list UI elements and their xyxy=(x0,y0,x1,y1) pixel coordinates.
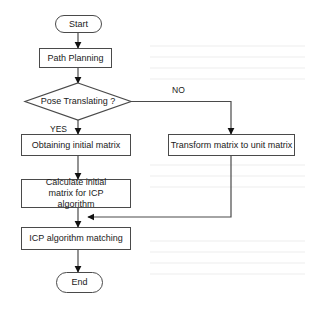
no-edge-label: NO xyxy=(172,85,185,95)
transform-matrix-label: Transform matrix to unit matrix xyxy=(171,140,293,151)
start-label: Start xyxy=(69,19,88,30)
yes-edge-label: YES xyxy=(50,124,67,134)
end-label: End xyxy=(71,277,87,288)
flowchart-canvas: Start Path Planning Pose Translating ? Y… xyxy=(0,0,309,312)
obtaining-initial-matrix-label: Obtaining initial matrix xyxy=(32,140,121,151)
start-node: Start xyxy=(55,15,102,33)
path-planning-label: Path Planning xyxy=(47,53,103,64)
icp-matching-label: ICP algorithm matching xyxy=(29,233,122,244)
flowchart-connectors xyxy=(0,0,309,312)
calculate-initial-matrix-label: Calculate initial matrix for ICP algorit… xyxy=(34,177,118,210)
calculate-initial-matrix-node: Calculate initial matrix for ICP algorit… xyxy=(21,179,131,208)
obtaining-initial-matrix-node: Obtaining initial matrix xyxy=(21,134,131,156)
decision-label: Pose Translating ? xyxy=(40,96,116,106)
path-planning-node: Path Planning xyxy=(39,48,112,68)
end-node: End xyxy=(56,272,103,293)
icp-matching-node: ICP algorithm matching xyxy=(21,227,131,250)
transform-matrix-node: Transform matrix to unit matrix xyxy=(168,134,295,156)
